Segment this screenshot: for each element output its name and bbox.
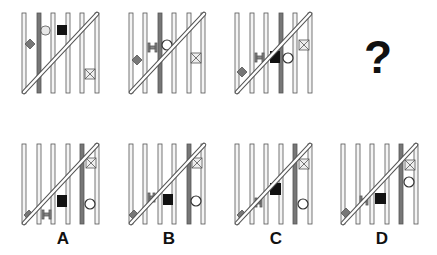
x-box-shape xyxy=(405,160,415,170)
circle-shape xyxy=(404,177,414,187)
capsule-shape xyxy=(41,26,50,35)
bars-figure xyxy=(122,5,222,105)
black-square-shape xyxy=(163,194,173,205)
x-box-shape xyxy=(299,40,309,50)
option-d-label[interactable]: D xyxy=(362,229,402,249)
circle-shape xyxy=(298,199,308,209)
black-square-shape xyxy=(57,195,67,207)
x-box-shape xyxy=(86,158,96,168)
bars-figure xyxy=(122,140,222,240)
bars-figure xyxy=(15,5,115,105)
bars-figure xyxy=(334,140,434,240)
i-beam-shape xyxy=(255,53,264,62)
x-box-shape xyxy=(85,69,95,79)
circle-shape xyxy=(283,53,293,63)
bars-figure xyxy=(228,5,328,105)
option-b-label[interactable]: B xyxy=(149,229,189,249)
bars-figure xyxy=(15,140,115,240)
x-box-shape xyxy=(191,53,201,63)
circle-shape xyxy=(191,196,201,206)
black-square-shape xyxy=(375,193,386,204)
circle-shape xyxy=(85,199,95,209)
sequence-panel-3 xyxy=(228,5,328,105)
x-box-shape xyxy=(299,159,309,169)
question-mark: ? xyxy=(358,30,398,84)
sequence-panel-2 xyxy=(122,5,222,105)
option-b-figure[interactable] xyxy=(122,140,222,240)
option-c-figure[interactable] xyxy=(228,140,328,240)
sequence-panel-1 xyxy=(15,5,115,105)
option-a-figure[interactable] xyxy=(15,140,115,240)
option-c-label[interactable]: C xyxy=(256,229,296,249)
black-square-shape xyxy=(57,25,67,35)
option-a-label[interactable]: A xyxy=(43,229,83,249)
diamond-shape xyxy=(25,39,35,49)
diamond-shape xyxy=(132,55,142,65)
i-beam-shape xyxy=(42,210,51,219)
i-beam-shape xyxy=(148,43,157,52)
option-d-figure[interactable] xyxy=(334,140,434,240)
bars-figure xyxy=(228,140,328,240)
